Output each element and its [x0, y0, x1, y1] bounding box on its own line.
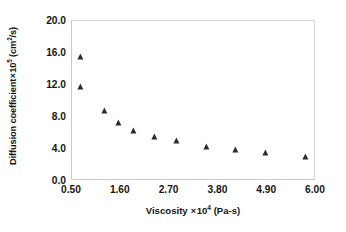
y-axis-title-exponent: 5	[6, 59, 13, 62]
y-axis-units-tail: /s)	[8, 27, 18, 37]
data-point-marker	[233, 147, 239, 153]
plot-area	[71, 20, 315, 180]
x-axis-tick-label: 6.00	[285, 184, 345, 195]
y-axis-tick-label: 20.0	[22, 15, 66, 26]
y-axis-tick-label: 8.0	[22, 111, 66, 122]
y-axis-tick-label: 16.0	[22, 47, 66, 58]
data-point-marker	[77, 83, 83, 89]
x-axis-title-name: Viscosity	[146, 205, 188, 216]
data-point-marker	[174, 137, 180, 143]
x-axis-title-base: 10	[197, 205, 208, 216]
y-axis-title-name: Diffusion coefficient	[8, 79, 18, 165]
data-point-marker	[77, 53, 83, 59]
y-axis-tick-label: 12.0	[22, 79, 66, 90]
data-point-marker	[130, 128, 136, 134]
data-point-marker	[303, 153, 309, 159]
data-layer	[72, 21, 314, 179]
x-axis-title: Viscosity ×104 (Pa-s)	[71, 205, 315, 216]
data-point-marker	[152, 133, 158, 139]
chart-figure: Diffusion coefficient×105 (cm2/s) 0.04.0…	[0, 0, 346, 232]
y-axis-title-times: ×	[8, 73, 18, 79]
data-point-marker	[115, 119, 121, 125]
x-axis-tick-labels: 0.501.602.703.804.906.00	[0, 184, 346, 200]
y-axis-tick-label: 4.0	[22, 143, 66, 154]
x-axis-title-exponent: 4	[207, 204, 211, 211]
y-axis-title-text: Diffusion coefficient×105 (cm2/s)	[8, 27, 18, 165]
y-axis-units-open: (cm	[8, 41, 18, 57]
data-point-marker	[263, 149, 269, 155]
y-axis-title-base: 10	[8, 63, 18, 73]
y-axis-units-exponent: 2	[6, 37, 13, 40]
x-axis-title-units: (Pa-s)	[214, 205, 241, 216]
data-point-marker	[204, 143, 210, 149]
data-point-marker	[101, 108, 107, 114]
